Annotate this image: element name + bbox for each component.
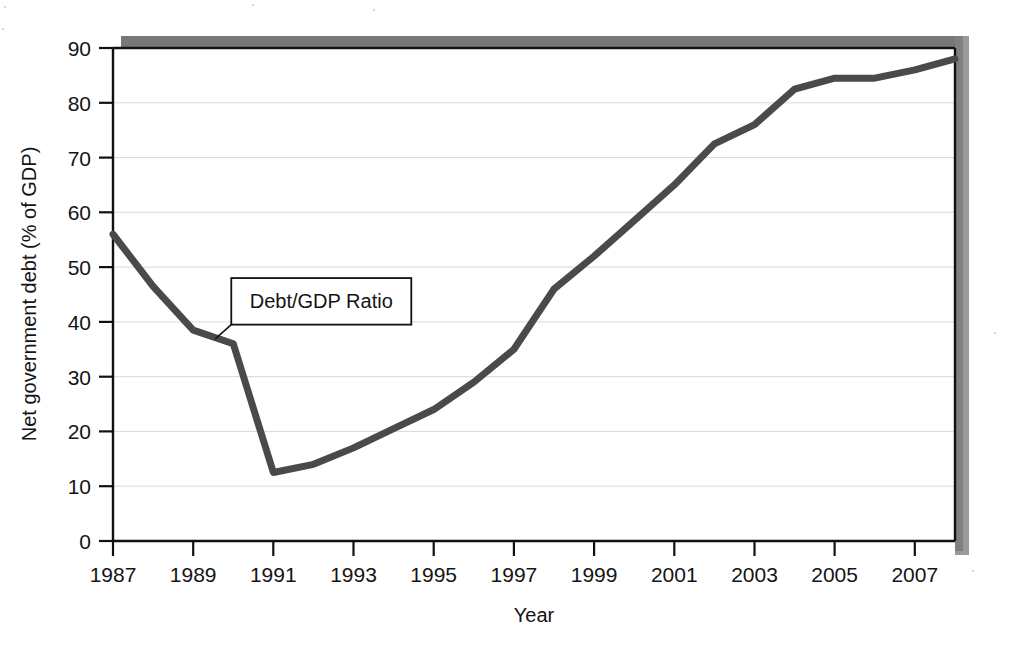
x-tick-label: 2005 (811, 563, 858, 586)
scan-speck (373, 9, 375, 11)
x-tick-label: 1991 (250, 563, 297, 586)
y-tick-label: 60 (68, 201, 91, 224)
y-axis-ticks (99, 48, 113, 541)
scan-speck (252, 4, 254, 6)
y-tick-label: 30 (68, 366, 91, 389)
scan-speck (994, 332, 996, 334)
y-tick-label: 10 (68, 475, 91, 498)
x-tick-label: 1989 (170, 563, 217, 586)
y-axis-title: Net government debt (% of GDP) (18, 147, 40, 442)
scan-speck (972, 570, 974, 572)
y-tick-label: 0 (79, 530, 91, 553)
x-tick-label: 1999 (571, 563, 618, 586)
scan-speck (4, 6, 6, 8)
x-tick-label: 2001 (651, 563, 698, 586)
x-tick-label: 2003 (731, 563, 778, 586)
x-tick-label: 1995 (410, 563, 457, 586)
y-tick-label: 40 (68, 311, 91, 334)
line-chart: 90 80 70 60 50 40 30 20 10 0 Net governm… (0, 0, 1009, 647)
y-tick-label: 20 (68, 420, 91, 443)
x-tick-label: 1987 (90, 563, 137, 586)
y-axis-tick-labels: 90 80 70 60 50 40 30 20 10 0 (68, 37, 91, 553)
figure-container: 90 80 70 60 50 40 30 20 10 0 Net governm… (0, 0, 1009, 647)
y-tick-label: 90 (68, 37, 91, 60)
y-tick-label: 70 (68, 147, 91, 170)
scan-speck (2, 28, 4, 30)
x-axis-title: Year (514, 604, 555, 626)
annotation-label: Debt/GDP Ratio (250, 290, 393, 312)
x-axis-ticks (113, 541, 915, 556)
x-tick-label: 2007 (891, 563, 938, 586)
x-axis-tick-labels: 1987 1989 1991 1993 1995 1997 1999 2001 … (90, 563, 939, 586)
x-tick-label: 1997 (491, 563, 538, 586)
y-tick-label: 80 (68, 92, 91, 115)
x-tick-label: 1993 (330, 563, 377, 586)
y-tick-label: 50 (68, 256, 91, 279)
